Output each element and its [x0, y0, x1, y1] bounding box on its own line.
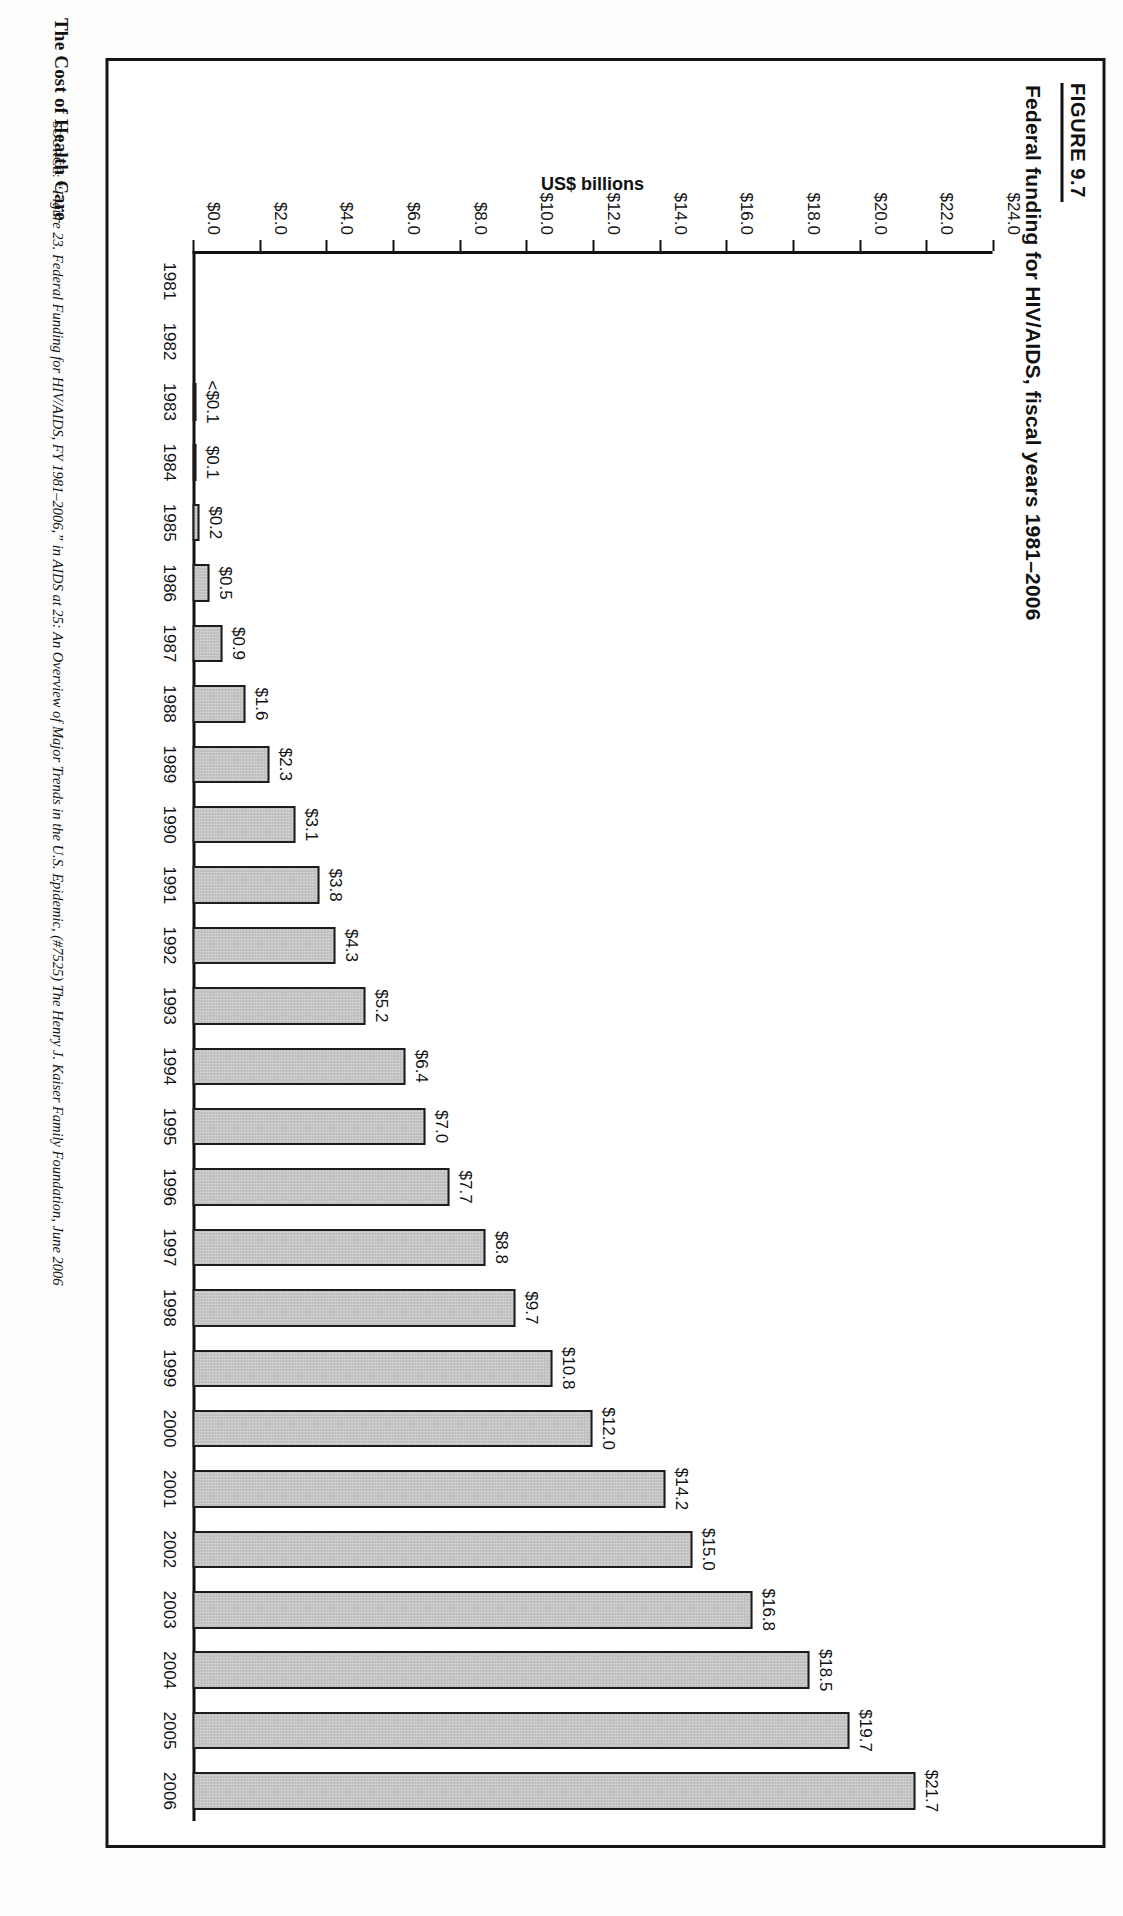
source-text-body: “Figure 23. Federal Funding for HIV/AIDS… [49, 182, 65, 1286]
bar-value-label: $10.8 [557, 1347, 577, 1390]
y-axis-tick-label: $16.0 [735, 192, 755, 235]
bar-value-label: $0.5 [214, 567, 234, 600]
y-axis-tick-label: $0.0 [202, 202, 222, 235]
bar-cell: $19.72005 [192, 1700, 992, 1760]
bar-cell: 1981 [192, 251, 992, 311]
bar: $5.2 [192, 987, 365, 1024]
bar: $6.4 [192, 1048, 405, 1085]
x-axis-tick-label: 1996 [158, 1168, 178, 1206]
bar-cell: $0.11984 [192, 432, 992, 492]
y-axis-tick [592, 240, 594, 251]
source-note: SOURCE: “Figure 23. Federal Funding for … [48, 121, 66, 1916]
x-axis-tick-label: 1991 [158, 866, 178, 904]
bar-cell: $14.22001 [192, 1459, 992, 1519]
y-axis-tick-label: $22.0 [935, 192, 955, 235]
y-axis-tick [659, 240, 661, 251]
bar-cell: <$0.11983 [192, 372, 992, 432]
bar-value-label: $4.3 [340, 929, 360, 962]
y-axis-tick-label: $24.0 [1002, 192, 1022, 235]
bar-value-label: $1.6 [250, 687, 270, 720]
bar: $3.8 [192, 866, 319, 903]
source-text: “Figure 23. Federal Funding for HIV/AIDS… [49, 182, 65, 1286]
bar-cell: $7.71996 [192, 1157, 992, 1217]
y-axis-tick-label: $14.0 [669, 192, 689, 235]
y-axis-tick [259, 240, 261, 251]
x-axis-tick-label: 1984 [158, 443, 178, 481]
x-axis-tick-label: 2003 [158, 1591, 178, 1629]
y-axis-tick-label: $18.0 [802, 192, 822, 235]
bar-value-label: $14.2 [670, 1468, 690, 1511]
bar-cell: $5.21993 [192, 976, 992, 1036]
bar-cell: $7.01995 [192, 1096, 992, 1156]
figure-number: FIGURE 9.7 [1065, 83, 1088, 198]
x-axis-tick-label: 1989 [158, 745, 178, 783]
bar: $14.2 [192, 1470, 665, 1507]
bar-value-label: $0.2 [204, 506, 224, 539]
bar: $0.9 [192, 625, 222, 662]
bar: $21.7 [192, 1772, 915, 1809]
bar-value-label: $2.3 [274, 748, 294, 781]
x-axis-tick-label: 1998 [158, 1289, 178, 1327]
y-axis-tick [859, 240, 861, 251]
bar: $15.0 [192, 1531, 692, 1568]
bar-value-label: $3.1 [300, 808, 320, 841]
bar: $9.7 [192, 1289, 515, 1326]
bar-value-label: $21.7 [920, 1770, 940, 1813]
bar-value-label: $0.9 [227, 627, 247, 660]
x-axis-tick-label: 1986 [158, 564, 178, 602]
bar-cell: $3.11990 [192, 795, 992, 855]
x-axis-tick-label: 1982 [158, 323, 178, 361]
y-axis-tick [792, 240, 794, 251]
bar: $1.6 [192, 685, 245, 722]
y-axis-tick [925, 240, 927, 251]
bar-series: 19811982<$0.11983$0.11984$0.21985$0.5198… [192, 251, 992, 1821]
x-axis-tick-label: 2002 [158, 1530, 178, 1568]
figure-title: Federal funding for HIV/AIDS, fiscal yea… [1020, 85, 1044, 621]
x-axis-tick-label: 1990 [158, 806, 178, 844]
bar: $16.8 [192, 1591, 752, 1628]
bar: <$0.1 [192, 383, 196, 420]
x-axis-tick-label: 1983 [158, 383, 178, 421]
x-axis-tick-label: 1994 [158, 1047, 178, 1085]
bar: $3.1 [192, 806, 295, 843]
bar-cell: $8.81997 [192, 1217, 992, 1277]
bar-cell: 1982 [192, 311, 992, 371]
bar: $2.3 [192, 746, 269, 783]
x-axis-tick-label: 2005 [158, 1712, 178, 1750]
bar-cell: $15.02002 [192, 1519, 992, 1579]
bar-value-label: $16.8 [757, 1589, 777, 1632]
y-axis-tick [725, 240, 727, 251]
y-axis-tick [192, 240, 194, 251]
bar: $18.5 [192, 1651, 809, 1688]
bar-cell: $10.81999 [192, 1338, 992, 1398]
x-axis-tick-label: 2004 [158, 1651, 178, 1689]
bar-value-label: $5.2 [370, 989, 390, 1022]
x-axis-tick-label: 2000 [158, 1410, 178, 1448]
bar: $0.5 [192, 564, 209, 601]
x-axis-tick-label: 1995 [158, 1108, 178, 1146]
bar-cell: $2.31989 [192, 734, 992, 794]
bar-value-label: $0.1 [201, 446, 221, 479]
y-axis-tick-label: $6.0 [402, 202, 422, 235]
y-axis-tick [525, 240, 527, 251]
bar-value-label: $8.8 [490, 1231, 510, 1264]
x-axis-tick-label: 1993 [158, 987, 178, 1025]
bar-value-label: $9.7 [520, 1291, 540, 1324]
y-axis-tick-label: $20.0 [869, 192, 889, 235]
y-axis-tick-label: $8.0 [469, 202, 489, 235]
x-axis-tick-label: 1988 [158, 685, 178, 723]
bar-cell: $9.71998 [192, 1278, 992, 1338]
y-axis-title: US$ billions [540, 174, 643, 195]
y-axis-tick-label: $12.0 [602, 192, 622, 235]
x-axis-tick-label: 1992 [158, 927, 178, 965]
bar: $19.7 [192, 1712, 849, 1749]
bar: $0.1 [192, 444, 196, 481]
bar-value-label: $7.0 [430, 1110, 450, 1143]
bar-value-label: $15.0 [697, 1528, 717, 1571]
x-axis-tick-label: 1987 [158, 625, 178, 663]
y-axis-tick-label: $2.0 [269, 202, 289, 235]
bar-cell: $16.82003 [192, 1580, 992, 1640]
bar-cell: $3.81991 [192, 855, 992, 915]
bar: $4.3 [192, 927, 335, 964]
bar-value-label: <$0.1 [201, 380, 221, 423]
